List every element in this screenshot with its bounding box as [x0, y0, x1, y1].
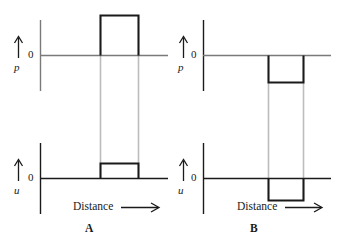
p-axis-label: p	[178, 61, 184, 73]
u-axis-label: u	[178, 184, 184, 196]
p-up-arrow-icon	[15, 37, 23, 59]
p-zero-tick-label: 0	[191, 48, 197, 60]
distance-axis-label: Distance	[237, 200, 277, 212]
p-pulse-trace	[101, 16, 139, 56]
u-zero-tick-label: 0	[28, 171, 34, 183]
p-up-arrow-icon	[180, 37, 188, 59]
u-axis-label: u	[14, 184, 20, 196]
panel-letter-a: A	[85, 222, 93, 234]
distance-arrow-icon	[285, 203, 322, 212]
u-zero-tick-label: 0	[191, 171, 197, 183]
p-axis-label: p	[14, 61, 20, 73]
p-pulse-trace	[269, 56, 304, 83]
figure-root: 0 0 p u Distance A	[0, 0, 350, 243]
u-up-arrow-icon	[15, 160, 23, 182]
u-up-arrow-icon	[180, 160, 188, 182]
p-zero-tick-label: 0	[28, 48, 34, 60]
panel-a: 0 0 p u Distance A	[0, 0, 175, 243]
u-pulse-trace	[269, 179, 304, 201]
distance-arrow-icon	[121, 203, 159, 212]
panel-b: 0 0 p u Distance B	[175, 0, 350, 243]
panel-letter-b: B	[250, 222, 258, 234]
u-pulse-trace	[101, 164, 139, 179]
distance-axis-label: Distance	[73, 200, 113, 212]
